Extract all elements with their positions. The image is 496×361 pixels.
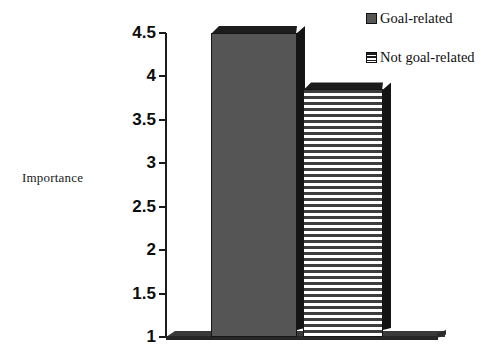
legend-item-goal-related[interactable]: Goal-related xyxy=(366,10,496,27)
y-axis-tick-mark xyxy=(159,75,166,77)
bar-not-goal-related[interactable] xyxy=(303,89,383,337)
striped-swatch-icon xyxy=(366,52,377,63)
legend: Goal-related Not goal-related xyxy=(366,10,496,89)
solid-gray-swatch-icon xyxy=(366,13,377,24)
y-axis-tick-mark xyxy=(159,32,166,34)
bar-front-face xyxy=(303,89,383,337)
y-axis-tick-label: 3 xyxy=(104,154,156,171)
y-axis-tick-mark xyxy=(159,249,166,251)
y-axis-tick-label: 3.5 xyxy=(104,111,156,128)
y-axis-tick-label: 4 xyxy=(104,67,156,84)
bar-front-face xyxy=(211,33,297,337)
bar-chart: Importance 4.543.532.521.51 Goal-related… xyxy=(0,0,496,361)
y-axis-tick-mark xyxy=(159,162,166,164)
legend-item-not-goal-related[interactable]: Not goal-related xyxy=(366,49,496,66)
y-axis-tick-label: 1.5 xyxy=(104,285,156,302)
y-axis-tick-label: 1 xyxy=(104,328,156,345)
legend-label-not-goal-related: Not goal-related xyxy=(380,49,475,66)
legend-label-goal-related: Goal-related xyxy=(380,10,452,27)
y-axis-tick-label: 2 xyxy=(104,241,156,258)
y-axis-tick-mark xyxy=(159,293,166,295)
y-axis-tick-label: 2.5 xyxy=(104,198,156,215)
bar-goal-related[interactable] xyxy=(211,33,297,337)
y-axis-tick-label: 4.5 xyxy=(104,24,156,41)
chart-floor-front xyxy=(166,336,438,340)
y-axis-tick-mark xyxy=(159,336,166,338)
y-axis-title: Importance xyxy=(22,170,83,186)
y-axis-tick-mark xyxy=(159,206,166,208)
bar-side-face xyxy=(383,82,391,330)
y-axis-tick-mark xyxy=(159,119,166,121)
